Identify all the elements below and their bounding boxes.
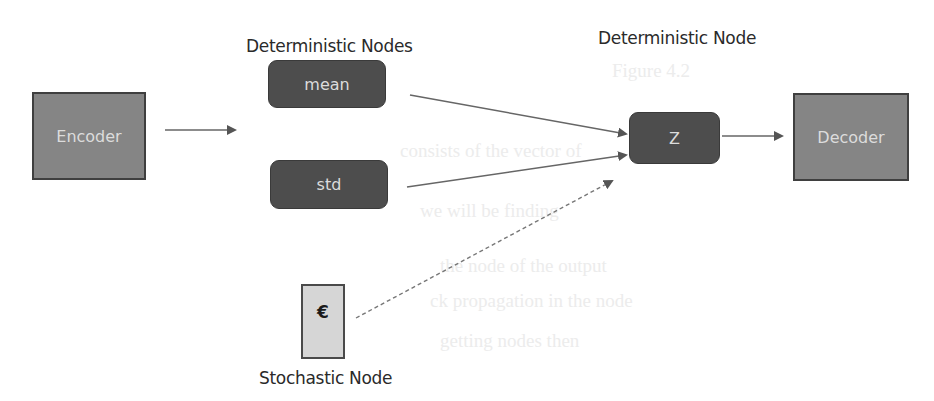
epsilon-node: € xyxy=(301,284,345,359)
edge-epsilon-to-z xyxy=(356,181,612,318)
diagram-edges xyxy=(0,0,934,401)
deterministic-nodes-label: Deterministic Nodes xyxy=(246,36,413,56)
deterministic-node-label: Deterministic Node xyxy=(598,28,756,48)
edge-mean-to-z xyxy=(410,95,626,134)
encoder-node: Encoder xyxy=(32,92,146,180)
mean-node: mean xyxy=(268,60,386,108)
epsilon-label: € xyxy=(317,302,329,322)
encoder-label: Encoder xyxy=(56,127,121,146)
decoder-label: Decoder xyxy=(817,128,884,147)
edge-std-to-z xyxy=(407,155,626,187)
stochastic-node-label: Stochastic Node xyxy=(259,368,392,388)
decoder-node: Decoder xyxy=(793,93,909,181)
mean-label: mean xyxy=(304,75,349,94)
z-node: Z xyxy=(629,112,720,164)
std-label: std xyxy=(317,175,342,194)
z-label: Z xyxy=(669,129,680,148)
std-node: std xyxy=(270,160,388,209)
